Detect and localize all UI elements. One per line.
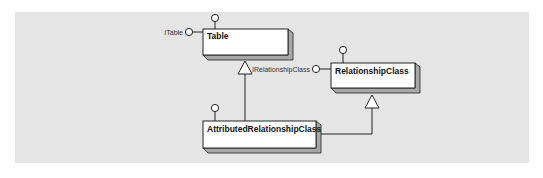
uml-diagram: ITable Table IRelationshipClass Relation…: [0, 0, 543, 178]
interface-label-irelationshipclass: IRelationshipClass: [252, 66, 310, 74]
inheritance-line: [321, 108, 372, 134]
inheritance-to-table: [238, 61, 252, 121]
generalization-arrow-icon: [365, 95, 379, 108]
interface-lollipop-icon: [185, 28, 192, 35]
class-label-relationshipclass: RelationshipClass: [335, 66, 409, 76]
class-label-attributedrelationshipclass: AttributedRelationshipClass: [207, 124, 322, 134]
interface-label-itable: ITable: [164, 29, 183, 36]
interface-lollipop-icon: [339, 46, 346, 53]
inheritance-to-relationship-class: [321, 95, 379, 134]
class-table[interactable]: ITable Table: [164, 14, 293, 60]
interface-lollipop-icon: [211, 14, 218, 21]
interface-lollipop-icon: [312, 65, 319, 72]
interface-lollipop-icon: [211, 104, 218, 111]
generalization-arrow-icon: [238, 61, 252, 74]
class-label-table: Table: [207, 31, 229, 41]
class-attributed-relationship-class[interactable]: AttributedRelationshipClass: [203, 104, 322, 153]
